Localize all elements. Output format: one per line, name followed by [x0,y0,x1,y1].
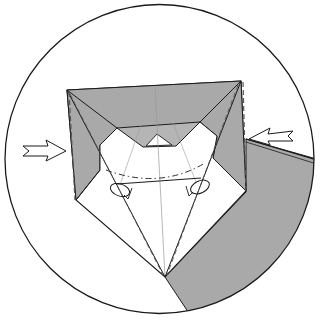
push-arrow-left-icon [23,140,66,161]
origami-diagram [0,0,320,324]
